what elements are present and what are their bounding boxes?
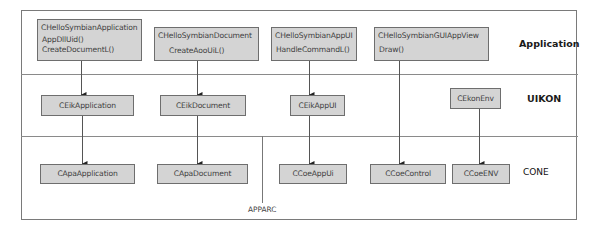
class-box-hellosymbian-guiappview: CHelloSymbianGUIAppView Draw(): [374, 27, 489, 61]
class-method: CreateAooUiL(): [155, 46, 258, 56]
class-box-hellosymbian-document: CHelloSymbianDocument CreateAooUiL(): [154, 27, 259, 61]
layer-label-cone: CONE: [523, 167, 549, 177]
class-method: HandleCommandL(): [272, 45, 356, 55]
apparc-label: APPARC: [248, 205, 276, 214]
class-box-hellosymbian-appui: CHelloSymbianAppUI HandleCommandL(): [271, 27, 357, 61]
class-title: CHelloSymbianGUIAppView: [375, 31, 488, 41]
class-title: CHelloSymbianAppUI: [272, 31, 356, 41]
class-title: CHelloSymbianDocument: [155, 31, 258, 41]
class-method: AppDllUid(): [38, 35, 141, 45]
class-box-coeappui: CCoeAppUi: [279, 164, 347, 184]
class-box-eikappui: CEikAppUI: [290, 95, 345, 116]
class-box-apaapplication: CApaApplication: [40, 164, 135, 184]
class-box-coeenv: CCoeENV: [452, 164, 510, 184]
layer-label-application: Application: [519, 38, 580, 49]
class-method: Draw(): [375, 45, 488, 55]
class-box-ekonenv: CEkonEnv: [450, 88, 501, 109]
class-box-apadocument: CApaDocument: [157, 164, 248, 184]
class-method: CreateDocumentL(): [38, 45, 141, 55]
layer-label-uikon: UIKON: [527, 93, 561, 104]
class-box-coecontrol: CCoeControl: [370, 164, 446, 184]
class-box-eikapplication: CEikApplication: [41, 95, 134, 116]
class-title: CHelloSymbianApplication: [38, 23, 141, 33]
class-box-eikdocument: CEikDocument: [160, 95, 246, 116]
class-box-hellosymbian-application: CHelloSymbianApplication AppDllUid() Cre…: [37, 19, 142, 61]
